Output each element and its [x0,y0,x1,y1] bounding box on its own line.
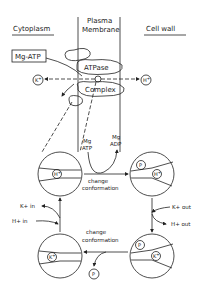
k-out-label: K+ out [172,204,192,210]
right-transition: K+ out H+ out [152,198,192,232]
top-transition: change conformation [82,174,128,191]
membrane-label-2: Membrane [82,26,120,34]
h-in-label: H+ in [12,218,28,224]
state-top-right: P H+ [130,152,174,196]
h-ion-right: H+ [143,76,150,83]
svg-text:K+: K+ [153,252,160,259]
region-labels: Cytoplasm Plasma Membrane Cell wall [12,17,186,35]
cytoplasm-label: Cytoplasm [13,25,50,33]
state-top-left: H+ [38,152,82,196]
svg-text:H+: H+ [154,170,161,177]
atpase-label: ATPase [84,64,109,72]
svg-text:Mg-ATP: Mg-ATP [15,53,41,61]
atpase-complex: ATPase Complex [65,48,124,105]
k-in-label: K+ in [20,203,35,209]
membrane-label-1: Plasma [87,17,112,25]
atpase-cycle-diagram: Cytoplasm Plasma Membrane Cell wall Mg-A… [0,0,204,294]
svg-text:Mg: Mg [83,138,91,145]
mg-atp-substrate: Mg-ATP [12,50,82,76]
svg-text:K+: K+ [49,253,56,260]
svg-text:P: P [139,162,142,168]
svg-text:change: change [86,229,107,236]
svg-text:ATP: ATP [82,145,93,151]
bottom-transition: change conformation P [82,229,128,279]
complex-label: Complex [85,86,116,94]
state-bottom-left: K+ [38,234,82,278]
svg-text:change: change [88,178,109,185]
svg-text:P: P [138,242,141,248]
svg-text:H+: H+ [54,170,61,177]
svg-text:conformation: conformation [82,237,119,243]
cell-wall-label: Cell wall [146,25,175,33]
released-phosphate: P [92,271,95,277]
k-ion-left: K+ [35,76,42,83]
state-bottom-right: P K+ [130,234,174,278]
left-transition: K+ in H+ in [12,198,60,232]
atp-hydrolysis: Mg ATP Mg ADP [82,134,122,173]
svg-text:conformation: conformation [82,185,119,191]
svg-text:Mg: Mg [112,134,120,141]
svg-text:ADP: ADP [110,141,122,147]
h-out-label: H+ out [171,221,191,227]
